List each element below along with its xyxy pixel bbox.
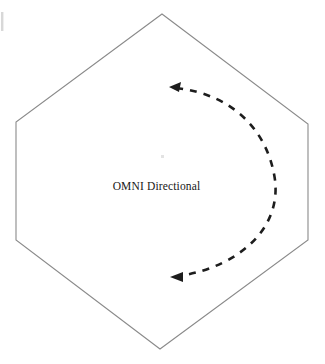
faint-speck-center [161,155,164,158]
page-title: OMNI Directional [0,179,319,193]
scan-artifact-left-edge [1,12,3,31]
omni-directional-figure: OMNI Directional [0,0,325,364]
